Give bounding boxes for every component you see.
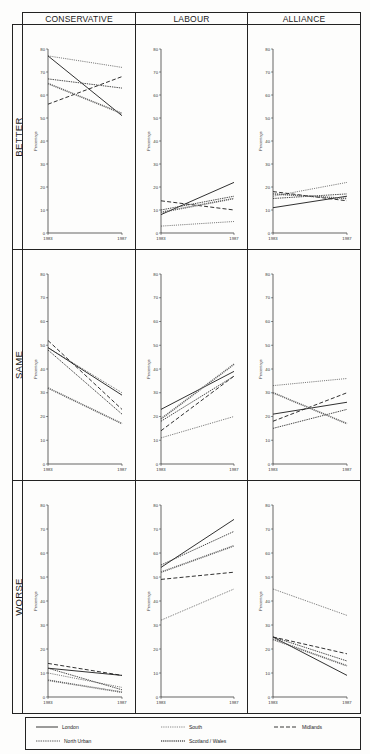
- series-line-scotland-wales: [161, 199, 234, 213]
- svg-text:50: 50: [265, 343, 270, 348]
- panel-alliance-better: 0102030405060708019831987Percentage: [247, 24, 361, 250]
- svg-text:40: 40: [153, 599, 158, 604]
- svg-text:60: 60: [265, 319, 270, 324]
- svg-text:50: 50: [265, 575, 270, 580]
- svg-text:1983: 1983: [156, 236, 166, 241]
- svg-text:20: 20: [40, 647, 45, 652]
- svg-text:Percentage: Percentage: [34, 359, 38, 378]
- series-line-scotland-wales: [273, 639, 347, 665]
- svg-text:50: 50: [40, 343, 45, 348]
- svg-text:10: 10: [40, 671, 45, 676]
- svg-text:20: 20: [40, 414, 45, 419]
- panel-conservative-better: 0102030405060708019831987Percentage: [22, 24, 136, 250]
- svg-text:40: 40: [40, 367, 45, 372]
- series-line-south: [273, 379, 347, 386]
- svg-text:40: 40: [153, 139, 158, 144]
- series-line-midlands: [48, 341, 122, 410]
- series-line-scotland-wales: [161, 364, 234, 419]
- svg-text:Percentage: Percentage: [259, 591, 263, 610]
- svg-text:Percentage: Percentage: [147, 591, 151, 610]
- dotted-line-icon: [161, 725, 185, 729]
- svg-text:1987: 1987: [229, 700, 239, 705]
- svg-text:70: 70: [40, 295, 45, 300]
- series-line-north-urban: [48, 350, 122, 414]
- series-line-london: [48, 56, 122, 116]
- svg-text:30: 30: [153, 623, 158, 628]
- series-line-midlands: [48, 77, 122, 105]
- svg-text:50: 50: [40, 116, 45, 121]
- column-header-alliance: ALLIANCE: [247, 12, 361, 24]
- series-line-midlands: [161, 572, 234, 579]
- svg-text:20: 20: [153, 647, 158, 652]
- svg-text:40: 40: [40, 139, 45, 144]
- svg-text:10: 10: [40, 208, 45, 213]
- svg-text:60: 60: [153, 551, 158, 556]
- series-line-north-urban: [161, 376, 234, 421]
- svg-text:70: 70: [265, 527, 270, 532]
- svg-text:1983: 1983: [268, 467, 278, 472]
- svg-text:40: 40: [153, 367, 158, 372]
- svg-text:1987: 1987: [117, 236, 127, 241]
- svg-text:1987: 1987: [117, 467, 127, 472]
- fine-dotted-line-icon: [36, 739, 60, 743]
- svg-text:Percentage: Percentage: [259, 131, 263, 150]
- svg-text:20: 20: [265, 185, 270, 190]
- svg-text:1983: 1983: [156, 467, 166, 472]
- svg-text:10: 10: [40, 438, 45, 443]
- column-header-labour: LABOUR: [135, 12, 248, 24]
- svg-text:80: 80: [265, 503, 270, 508]
- svg-text:50: 50: [153, 575, 158, 580]
- svg-text:10: 10: [265, 438, 270, 443]
- svg-text:60: 60: [40, 93, 45, 98]
- svg-text:1983: 1983: [268, 236, 278, 241]
- svg-text:1983: 1983: [43, 236, 53, 241]
- svg-text:70: 70: [265, 70, 270, 75]
- svg-text:Percentage: Percentage: [147, 131, 151, 150]
- series-line-midlands: [273, 393, 347, 422]
- svg-text:30: 30: [153, 162, 158, 167]
- legend-item-north-urban: North Urban: [36, 738, 91, 744]
- legend-item-london: London: [36, 724, 79, 730]
- svg-text:1983: 1983: [43, 700, 53, 705]
- panel-conservative-same: 0102030405060708019831987Percentage: [22, 249, 136, 481]
- svg-text:80: 80: [153, 47, 158, 52]
- svg-text:1987: 1987: [342, 700, 352, 705]
- series-line-midlands: [273, 637, 347, 654]
- svg-text:1987: 1987: [117, 700, 127, 705]
- svg-text:10: 10: [153, 671, 158, 676]
- svg-text:60: 60: [153, 93, 158, 98]
- svg-text:70: 70: [265, 295, 270, 300]
- svg-text:Percentage: Percentage: [34, 131, 38, 150]
- svg-text:20: 20: [153, 185, 158, 190]
- series-line-south: [48, 56, 122, 68]
- panel-labour-same: 0102030405060708019831987Percentage: [135, 249, 248, 481]
- svg-text:50: 50: [153, 116, 158, 121]
- svg-text:Percentage: Percentage: [259, 359, 263, 378]
- svg-text:1987: 1987: [342, 236, 352, 241]
- thick-dotted-line-icon: [161, 739, 185, 743]
- svg-text:30: 30: [40, 162, 45, 167]
- svg-text:20: 20: [265, 647, 270, 652]
- svg-text:30: 30: [265, 162, 270, 167]
- svg-text:70: 70: [153, 70, 158, 75]
- svg-text:10: 10: [265, 208, 270, 213]
- svg-text:70: 70: [40, 527, 45, 532]
- svg-text:60: 60: [265, 93, 270, 98]
- solid-line-icon: [36, 725, 58, 729]
- svg-text:70: 70: [153, 527, 158, 532]
- svg-text:1983: 1983: [268, 700, 278, 705]
- panel-alliance-worse: 0102030405060708019831987Percentage: [247, 480, 361, 714]
- svg-text:40: 40: [265, 367, 270, 372]
- svg-text:60: 60: [265, 551, 270, 556]
- svg-text:Percentage: Percentage: [147, 359, 151, 378]
- panel-alliance-same: 0102030405060708019831987Percentage: [247, 249, 361, 481]
- svg-text:80: 80: [265, 47, 270, 52]
- svg-text:60: 60: [40, 319, 45, 324]
- svg-text:10: 10: [265, 671, 270, 676]
- svg-text:20: 20: [153, 414, 158, 419]
- svg-text:40: 40: [265, 139, 270, 144]
- svg-text:10: 10: [153, 438, 158, 443]
- svg-text:80: 80: [153, 272, 158, 277]
- legend-item-scotland-wales: Scotland / Wales: [161, 738, 226, 744]
- svg-text:1983: 1983: [156, 700, 166, 705]
